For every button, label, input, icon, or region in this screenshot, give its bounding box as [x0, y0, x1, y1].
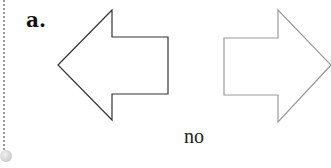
left-arrow-icon — [58, 10, 168, 120]
right-arrow-icon — [224, 10, 331, 122]
arrows-figure — [0, 0, 331, 168]
answer-caption: no — [184, 125, 204, 148]
